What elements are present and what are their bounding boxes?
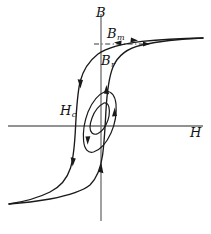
annotation-br-sub: r: [111, 60, 115, 69]
hysteresis-plot-canvas: [0, 0, 211, 234]
axis-label-b: B: [96, 6, 106, 19]
annotation-bm-sub: m: [117, 33, 125, 42]
hysteresis-figure: B Bm Br Hc H: [0, 0, 211, 234]
annotation-br: Br: [101, 54, 115, 69]
annotation-bm: Bm: [107, 27, 125, 42]
arrow-icon-minor-left: [85, 136, 90, 145]
annotation-bm-base: B: [107, 26, 117, 41]
annotation-hc-sub: c: [71, 110, 76, 119]
annotation-hc-base: H: [60, 103, 71, 118]
minor-loop-outer: [83, 91, 116, 152]
annotation-hc: Hc: [60, 104, 76, 119]
annotation-br-base: B: [101, 53, 111, 68]
axis-label-h: H: [190, 126, 201, 139]
